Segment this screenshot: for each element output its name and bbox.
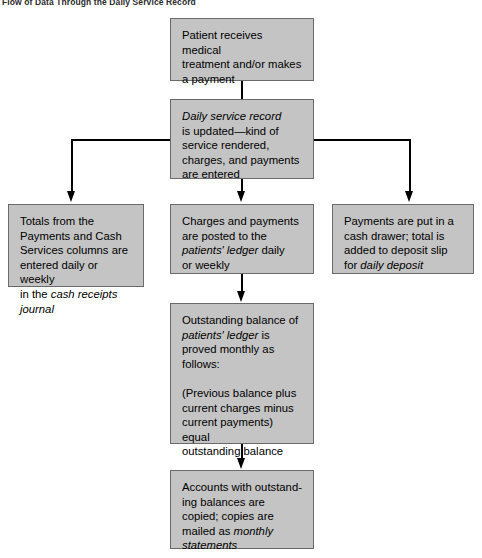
flow-node-cash-drawer-deposit: Payments are put in a cash drawer; total… (332, 204, 474, 274)
figure-caption: Flow of Data Through the Daily Service R… (2, 0, 196, 7)
daily-record-line-2: is updated—kind of (182, 125, 279, 137)
daily-record-line-5: are entered (182, 168, 240, 180)
flow-node-monthly-statements: Accounts with outstand- ing balances are… (170, 470, 314, 549)
daily-record-italic-lead: Daily service record (182, 110, 281, 122)
accounts-line-2: ing balances are (182, 496, 265, 508)
arrowhead-to-outstanding (237, 291, 245, 302)
accounts-line-4-italic: monthly (234, 525, 274, 537)
totals-line-2: Payments and Cash (20, 230, 122, 242)
outstanding-line-6: current charges minus (182, 402, 294, 414)
patient-line-3: a payment (182, 73, 235, 85)
outstanding-line-1: Outstanding balance of (182, 314, 298, 326)
totals-line-4: entered daily or weekly (20, 259, 98, 286)
connector-charges-to-outstanding (241, 274, 243, 292)
cash-drawer-line-3: added to deposit slip (344, 244, 448, 256)
flow-node-charges-payments-posted: Charges and payments are posted to the p… (170, 204, 314, 274)
charges-line-4: or weekly (182, 259, 230, 271)
accounts-line-5-italic: statements (182, 539, 237, 551)
connector-branch-right-vertical (409, 139, 411, 191)
arrowhead-to-charges (237, 191, 245, 202)
flow-node-patient: Patient receives medical treatment and/o… (170, 18, 314, 81)
accounts-line-4-plain: mailed as (182, 525, 234, 537)
flow-node-daily-service-record: Daily service record is updated—kind of … (170, 99, 314, 179)
outstanding-line-5: (Previous balance plus (182, 387, 296, 399)
cash-drawer-line-4-italic: daily deposit (360, 259, 423, 271)
charges-line-3-italic: patients' ledger (182, 244, 258, 256)
outstanding-line-2-plain: is (258, 329, 269, 341)
totals-line-3: Services columns are (20, 244, 128, 256)
flow-node-outstanding-balance-proof: Outstanding balance of patients' ledger … (170, 303, 314, 444)
connector-branch-right-horizontal (313, 139, 410, 141)
arrowhead-to-cash-drawer (405, 191, 413, 202)
daily-record-line-3: service rendered, (182, 139, 269, 151)
totals-line-5-plain: in the (20, 288, 51, 300)
connector-branch-left-vertical (71, 139, 73, 191)
charges-line-1: Charges and payments (182, 215, 299, 227)
cash-drawer-line-4-plain: for (344, 259, 360, 271)
flow-node-totals-cash-receipts: Totals from the Payments and Cash Servic… (8, 204, 144, 287)
flowchart-figure: Flow of Data Through the Daily Service R… (0, 0, 482, 558)
patient-line-1: Patient receives medical (182, 29, 262, 56)
daily-record-line-4: charges, and payments (182, 154, 299, 166)
accounts-line-3: copied; copies are (182, 510, 274, 522)
totals-line-6-italic: journal (20, 303, 54, 315)
charges-line-2: are posted to the (182, 230, 267, 242)
cash-drawer-line-1: Payments are put in a (344, 215, 454, 227)
arrowhead-to-accounts (237, 458, 245, 469)
totals-line-5-italic: cash receipts (51, 288, 118, 300)
arrowhead-to-totals (67, 191, 75, 202)
accounts-line-1: Accounts with outstand- (182, 481, 302, 493)
outstanding-line-2-italic: patients' ledger (182, 329, 258, 341)
connector-branch-left-horizontal (71, 139, 171, 141)
outstanding-line-7: current payments) equal (182, 416, 273, 443)
outstanding-line-8: outstanding balance (182, 445, 283, 457)
charges-line-3-plain: daily (258, 244, 284, 256)
totals-line-1: Totals from the (20, 215, 94, 227)
outstanding-line-3: proved monthly as (182, 343, 274, 355)
cash-drawer-line-2: cash drawer; total is (344, 230, 444, 242)
patient-line-2: treatment and/or makes (182, 58, 301, 70)
outstanding-line-4: follows: (182, 358, 220, 370)
